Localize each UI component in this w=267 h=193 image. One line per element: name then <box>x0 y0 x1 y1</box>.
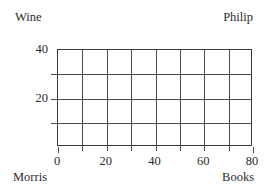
x-tick-label: 0 <box>54 155 60 168</box>
x-tick-label: 80 <box>246 155 259 168</box>
grid-line-vertical <box>131 49 132 151</box>
grid-line-vertical <box>229 49 230 151</box>
axis-tick-vertical <box>253 147 254 153</box>
x-tick-label: 60 <box>197 155 210 168</box>
axis-tick-vertical <box>58 147 59 153</box>
grid-line-vertical <box>180 49 181 151</box>
grid-line-horizontal <box>51 123 252 124</box>
plot-grid <box>57 49 252 146</box>
grid-line-vertical <box>204 49 205 151</box>
grid-line-vertical <box>82 49 83 151</box>
y-tick-label: 40 <box>36 43 49 56</box>
chart-page: Wine Philip 020406080 2040 Morris Books <box>0 0 267 193</box>
y-tick-label: 20 <box>36 91 49 104</box>
annotation-top-right: Philip <box>223 11 253 24</box>
grid-line-vertical <box>156 49 157 151</box>
annotation-bottom-right: Books <box>222 171 254 184</box>
x-tick-label: 20 <box>100 155 113 168</box>
x-tick-label: 40 <box>148 155 161 168</box>
grid-line-horizontal <box>51 99 252 100</box>
annotation-bottom-left: Morris <box>13 171 47 184</box>
grid-line-horizontal <box>51 74 252 75</box>
grid-line-vertical <box>107 49 108 151</box>
annotation-top-left: Wine <box>15 11 42 24</box>
